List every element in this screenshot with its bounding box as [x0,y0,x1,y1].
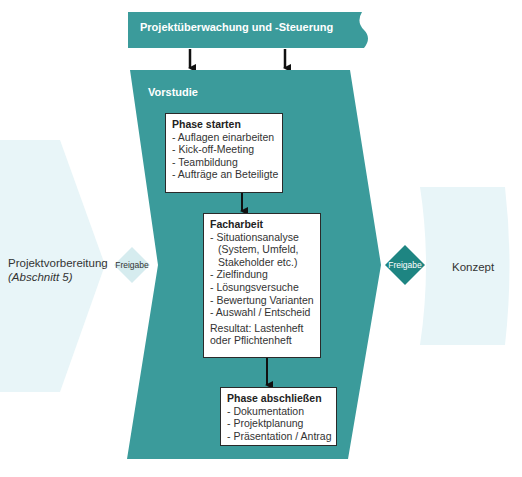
gate-right-label: Freigabe [383,260,427,270]
list-item: - Bewertung Varianten [210,294,314,307]
box-phase-start: Phase starten - Auflagen einarbeiten - K… [165,113,283,193]
list-item: - Kick-off-Meeting [172,143,276,156]
phase-title: Vorstudie [148,86,198,98]
control-banner-title: Projektüberwachung und -Steuerung [140,21,333,33]
list-item: - Dokumentation [227,405,330,418]
gate-left-label: Freigabe [110,260,154,270]
list-item: - Projektplanung [227,417,330,430]
next-phase-label: Konzept [452,260,494,274]
list-item: - Auflagen einarbeiten [172,131,276,144]
list-item: - Zielfindung [210,268,314,281]
box-title: Phase starten [172,118,276,131]
box-phase-close: Phase abschließen - Dokumentation - Proj… [220,387,337,446]
box-title: Phase abschließen [227,392,330,405]
list-item: - Teambildung [172,156,276,169]
previous-phase-label: Projektvorbereitung (Abschnitt 5) [8,256,108,284]
list-item: Stakeholder etc.) [210,256,314,269]
previous-phase-sublabel: (Abschnitt 5) [8,270,108,284]
box-title: Facharbeit [210,218,314,231]
previous-phase-title: Projektvorbereitung [8,256,108,270]
result-line: Resultat: Lastenheft [210,322,314,335]
list-item: (System, Umfeld, [210,243,314,256]
list-item: - Situationsanalyse [210,231,314,244]
result-line: oder Pflichtenheft [210,334,314,347]
list-item: - Auswahl / Entscheid [210,306,314,319]
list-item: - Lösungsversuche [210,281,314,294]
list-item: - Aufträge an Beteiligte [172,168,276,181]
list-item: - Präsentation / Antrag [227,430,330,443]
box-facharbeit: Facharbeit - Situationsanalyse (System, … [203,213,321,358]
